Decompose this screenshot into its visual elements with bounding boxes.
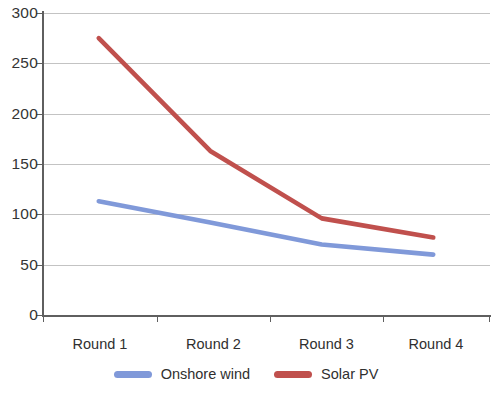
x-axis-line (42, 315, 491, 317)
chart-legend: Onshore wind Solar PV (0, 366, 492, 382)
legend-item-onshore-wind: Onshore wind (114, 366, 250, 382)
gridline-250 (43, 63, 490, 64)
y-axis-label-100: 100 (2, 205, 38, 223)
line-chart: 300 250 200 150 100 50 0 Round 1 Round 2… (0, 0, 492, 398)
x-axis-label-round-3: Round 3 (270, 336, 383, 352)
plot-area (43, 13, 490, 315)
y-axis-label-250: 250 (2, 54, 38, 72)
x-tick-2 (270, 315, 271, 322)
x-axis-label-round-1: Round 1 (43, 336, 157, 352)
legend-label-solar-pv: Solar PV (321, 366, 378, 382)
legend-swatch-onshore-wind (114, 371, 152, 378)
y-axis-label-300: 300 (2, 4, 38, 22)
legend-swatch-solar-pv (274, 371, 312, 378)
x-tick-3 (383, 315, 384, 322)
gridline-50 (43, 265, 490, 266)
y-axis-label-0: 0 (2, 306, 38, 324)
gridline-200 (43, 114, 490, 115)
x-axis-label-round-4: Round 4 (383, 336, 489, 352)
x-axis-label-round-2: Round 2 (157, 336, 270, 352)
y-axis-label-50: 50 (2, 256, 38, 274)
x-tick-4 (489, 315, 490, 322)
legend-item-solar-pv: Solar PV (274, 366, 378, 382)
gridline-300 (43, 13, 490, 14)
gridline-100 (43, 214, 490, 215)
legend-label-onshore-wind: Onshore wind (161, 366, 250, 382)
y-axis-label-150: 150 (2, 155, 38, 173)
x-tick-1 (157, 315, 158, 322)
y-axis-label-200: 200 (2, 105, 38, 123)
x-tick-0 (43, 315, 44, 322)
gridline-150 (43, 164, 490, 165)
